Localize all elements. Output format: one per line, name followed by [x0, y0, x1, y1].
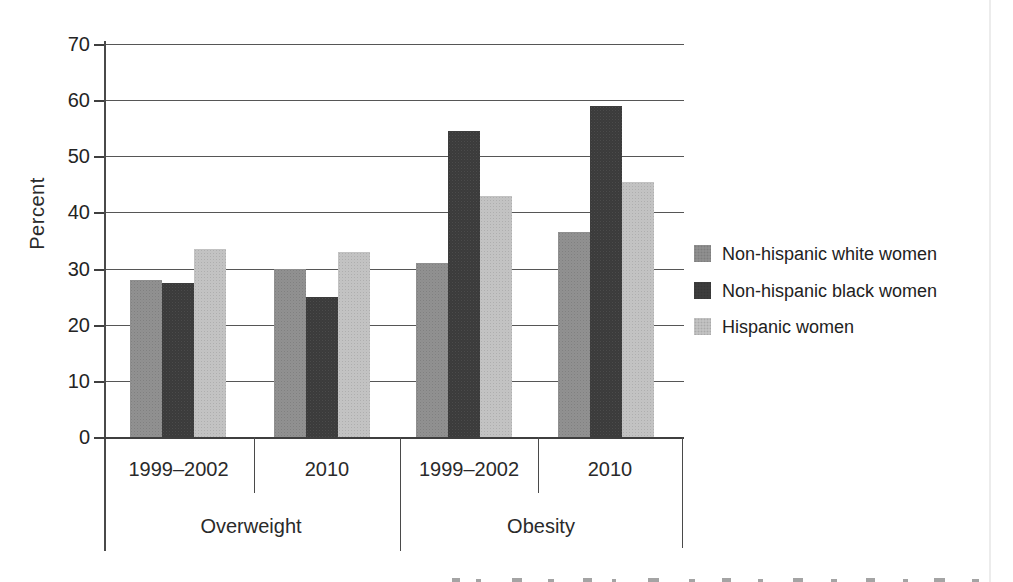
- bar-obesity-2010-series2: [622, 182, 654, 437]
- period-divider: [254, 437, 255, 493]
- bar-chart: 010203040506070 Percent 1999–20022010199…: [0, 0, 1013, 582]
- bar-overweight-1999–2002-series2: [194, 249, 226, 437]
- bar-overweight-1999–2002-series0: [130, 280, 162, 437]
- caption-fragment-8: [722, 578, 731, 582]
- axis-right-border: [682, 437, 683, 548]
- legend-swatch-2: [694, 318, 711, 335]
- bar-overweight-1999–2002-series1: [162, 283, 194, 437]
- y-ticklabel-0: 0: [28, 425, 90, 449]
- bar-overweight-2010-series2: [338, 252, 370, 437]
- legend-swatch-1: [694, 282, 711, 299]
- caption-fragment-6: [648, 578, 659, 582]
- gridline-70: [105, 44, 684, 45]
- y-ticklabel-60: 60: [28, 88, 90, 112]
- legend-swatch-0: [694, 245, 711, 262]
- bar-obesity-2010-series0: [558, 232, 590, 437]
- category-label-obesity: Obesity: [507, 515, 575, 538]
- bar-obesity-1999–2002-series2: [480, 196, 512, 437]
- legend-label-0: Non-hispanic white women: [722, 244, 937, 264]
- caption-fragment-4: [583, 578, 592, 582]
- caption-fragment-14: [934, 578, 945, 582]
- bar-obesity-2010-series1: [590, 106, 622, 437]
- bar-overweight-2010-series0: [274, 269, 306, 437]
- period-label-3: 2010: [588, 458, 633, 481]
- y-ticklabel-20: 20: [28, 313, 90, 337]
- y-axis-line: [104, 41, 106, 551]
- gridline-60: [105, 100, 684, 101]
- bar-overweight-2010-series1: [306, 297, 338, 437]
- period-label-2: 1999–2002: [419, 458, 519, 481]
- bar-obesity-1999–2002-series1: [448, 131, 480, 437]
- period-label-1: 2010: [305, 458, 350, 481]
- period-label-0: 1999–2002: [128, 458, 228, 481]
- bar-obesity-1999–2002-series0: [416, 263, 448, 437]
- category-label-overweight: Overweight: [200, 515, 301, 538]
- caption-fragment-10: [793, 578, 803, 582]
- y-ticklabel-70: 70: [28, 32, 90, 56]
- legend-label-2: Hispanic women: [722, 317, 854, 337]
- page-edge-line: [989, 0, 991, 582]
- x-axis-line: [104, 437, 684, 439]
- period-divider: [538, 437, 539, 493]
- y-ticklabel-10: 10: [28, 369, 90, 393]
- y-axis-title: Percent: [26, 159, 49, 269]
- category-divider: [400, 437, 401, 551]
- figure-page: 010203040506070 Percent 1999–20022010199…: [0, 0, 1013, 582]
- legend-label-1: Non-hispanic black women: [722, 281, 937, 301]
- caption-fragment-0: [452, 578, 460, 582]
- caption-fragment-12: [866, 578, 875, 582]
- caption-fragment-2: [512, 578, 522, 582]
